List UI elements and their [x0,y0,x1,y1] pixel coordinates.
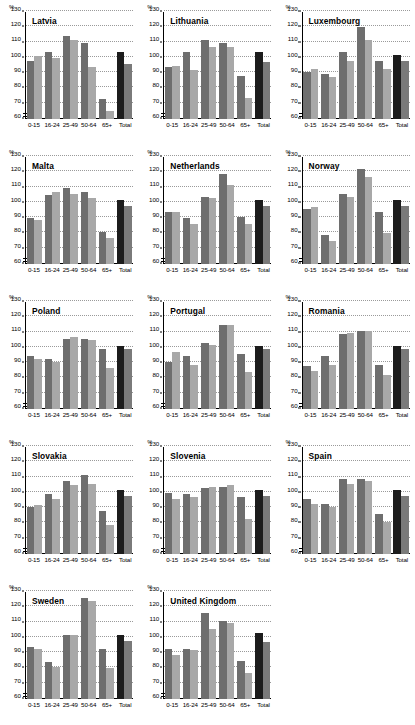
x-axis-tick-label: 50-64 [81,266,97,273]
x-axis-tick-label: 0-15 [303,556,319,563]
x-axis-tick-label: 50-64 [81,556,97,563]
y-axis-tick-label: 80 [291,227,298,233]
y-axis-tick-label: 70 [291,533,298,539]
y-axis-tick-label: 90 [152,67,159,73]
bar [263,496,271,554]
x-axis-tick-label: 65+ [376,411,392,418]
y-axis-tick-label: 120 [11,21,21,27]
bar-group [165,447,180,554]
bar-group [99,12,114,119]
y-axis-tick [160,591,163,592]
chart-panel: %60708090100110120130Slovenia0-1516-2425… [138,435,276,580]
bar [237,76,245,119]
x-axis-tick-label: 65+ [99,266,115,273]
x-axis-tick-label: 16-24 [321,556,337,563]
y-axis-tick-label: 80 [14,517,21,523]
x-axis-tick-label: 65+ [237,411,253,418]
gridline [26,300,133,301]
bar [63,339,71,409]
x-axis-labels: 0-1516-2425-4950-6465+Total [25,121,133,128]
y-axis-tick [22,346,25,347]
x-axis-labels: 0-1516-2425-4950-6465+Total [302,411,410,418]
bar [227,47,235,119]
bar-group [255,447,270,554]
bar-group [201,447,216,554]
bar [183,52,191,119]
bar-group [393,302,408,409]
bar [401,61,409,119]
bar [70,337,78,409]
x-axis-tick-label: 16-24 [183,411,199,418]
y-axis-tick [22,217,25,218]
bar-group [339,157,354,264]
bar [209,47,217,119]
chart-panel: %60708090100110120130Slovakia0-1516-2425… [0,435,138,580]
x-axis-tick-label: 0-15 [164,556,180,563]
bar [52,499,60,554]
bar-group [81,447,96,554]
bar-group [237,447,252,554]
y-axis-tick-label: 120 [11,601,21,607]
y-axis-tick-label: 80 [152,227,159,233]
bar-series-container [302,12,410,119]
x-axis-tick-label: Total [117,701,133,708]
y-axis-tick [160,682,163,683]
bar [63,481,71,554]
y-axis-tick [22,446,25,447]
y-axis-tick [22,537,25,538]
y-axis-tick [22,11,25,12]
y-axis-tick [298,217,301,218]
bar [190,497,198,554]
bar-group [321,12,336,119]
bar [172,655,180,699]
bar [99,232,107,264]
y-axis-tick [298,171,301,172]
bar [45,662,53,699]
bar-group [183,12,198,119]
y-axis-tick-label: 60 [14,693,21,699]
y-axis-labels: 60708090100110120130 [138,302,162,409]
y-axis-tick-label: 70 [14,533,21,539]
bar-series-container [25,447,133,554]
bar [81,598,89,699]
bar [393,490,401,554]
bar-group [321,447,336,554]
y-axis-tick-label: 120 [149,166,159,172]
y-axis-tick-label: 90 [14,357,21,363]
x-axis-tick-label: Total [256,411,272,418]
y-axis-labels: 60708090100110120130 [0,157,24,264]
x-axis-tick-label: 65+ [237,121,253,128]
gridline [26,10,133,11]
y-axis-labels: 60708090100110120130 [0,302,24,409]
bar-series-container [25,302,133,409]
y-axis-tick [160,232,163,233]
bar [165,493,173,554]
gridline [303,155,410,156]
bar-series-container [163,302,271,409]
bar-group [27,12,42,119]
y-axis-tick-label: 100 [149,487,159,493]
bar [329,507,337,554]
y-axis-tick [298,446,301,447]
x-axis-tick-label: 65+ [237,266,253,273]
bar-group [45,157,60,264]
y-axis-tick [160,346,163,347]
x-axis-tick-label: 25-49 [201,556,217,563]
y-axis-tick [298,41,301,42]
y-axis-tick-label: 100 [11,197,21,203]
bar-group [219,12,234,119]
y-axis-labels: 60708090100110120130 [277,302,301,409]
bar-group [99,302,114,409]
y-axis-tick [160,377,163,378]
y-axis-tick-label: 130 [11,586,21,592]
y-axis-tick-label: 110 [11,181,21,187]
x-axis-tick-label: 16-24 [183,266,199,273]
bar [124,206,132,264]
bar [81,339,89,409]
x-axis-labels: 0-1516-2425-4950-6465+Total [163,266,271,273]
gridline [26,445,133,446]
y-axis-tick-label: 120 [149,311,159,317]
y-axis-tick-label: 80 [291,372,298,378]
y-axis-tick [22,26,25,27]
y-axis-tick-label: 110 [149,616,159,622]
